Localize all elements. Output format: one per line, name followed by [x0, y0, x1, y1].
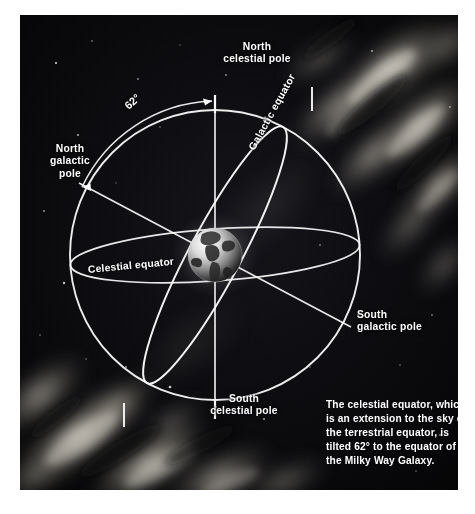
label-north-celestial-pole: North celestial pole — [196, 41, 318, 66]
astronomy-figure: North celestial pole North galactic pole… — [20, 15, 458, 490]
figure-caption: The celestial equator, which is an exten… — [326, 398, 458, 468]
label-south-galactic-pole: South galactic pole — [357, 309, 458, 334]
label-south-celestial-pole: South celestial pole — [180, 393, 308, 418]
page-text-below-figure — [32, 504, 332, 514]
label-north-galactic-pole: North galactic pole — [32, 143, 108, 180]
